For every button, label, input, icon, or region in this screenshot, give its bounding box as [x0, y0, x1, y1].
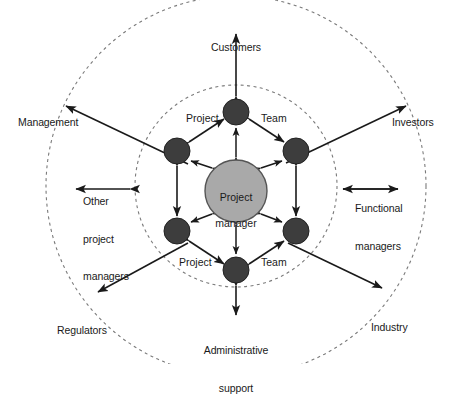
arrow-core-node-upper-left — [191, 161, 212, 168]
stakeholder-management-line1: Management — [18, 116, 78, 129]
stakeholder-customers[interactable]: Customers — [211, 16, 261, 79]
core-label-line1: Project — [196, 191, 276, 204]
stakeholder-administrative-support-line2: support — [204, 382, 269, 395]
label-project-bottom: Project — [179, 256, 212, 269]
stakeholder-customers-line1: Customers — [211, 41, 261, 54]
stakeholder-functional-managers-line2: managers — [355, 240, 402, 253]
stakeholder-other-project-managers-line3: managers — [83, 270, 129, 283]
node-lower-right[interactable] — [283, 218, 309, 244]
stakeholder-administrative-support-line1: Administrative — [204, 344, 269, 357]
stakeholder-regulators-line1: Regulators — [57, 324, 107, 337]
stakeholder-management[interactable]: Management — [18, 91, 78, 154]
stakeholder-industry-line1: Industry — [371, 321, 408, 334]
node-top[interactable] — [223, 99, 249, 125]
stakeholder-investors-line1: Investors — [392, 116, 434, 129]
core-label-project-manager: Project manager — [196, 178, 276, 243]
label-team-top: Team — [261, 112, 287, 125]
core-label-line2: manager — [196, 217, 276, 230]
label-project-top: Project — [186, 112, 219, 125]
node-bottom[interactable] — [223, 257, 249, 283]
arrow-core-node-upper-right — [261, 161, 282, 168]
stakeholder-regulators[interactable]: Regulators — [57, 299, 107, 362]
stakeholder-functional-managers[interactable]: Functional managers — [355, 177, 402, 277]
stakeholder-other-project-managers[interactable]: Other project managers — [83, 170, 129, 308]
node-lower-left[interactable] — [164, 218, 190, 244]
stakeholder-industry[interactable]: Industry — [371, 296, 408, 359]
node-upper-right[interactable] — [283, 138, 309, 164]
stakeholder-other-project-managers-line2: project — [83, 233, 129, 246]
stakeholder-functional-managers-line1: Functional — [355, 202, 402, 215]
stakeholder-administrative-support[interactable]: Administrative support — [204, 319, 269, 398]
node-upper-left[interactable] — [164, 138, 190, 164]
stakeholder-investors[interactable]: Investors — [392, 91, 434, 154]
label-team-bottom: Team — [261, 256, 287, 269]
stakeholder-other-project-managers-line1: Other — [83, 195, 129, 208]
